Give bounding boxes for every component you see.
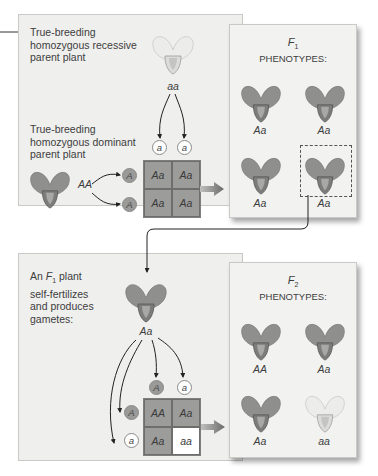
purple-flower-icon [238,316,284,362]
label-line: homozygous dominant [30,136,136,149]
punnett-square-p: Aa Aa Aa Aa [143,160,201,218]
gamete-left-A-1: A [122,168,137,183]
purple-flower-icon [238,388,284,434]
label-line: True-breeding [30,123,136,136]
gamete-left-A: A [124,405,139,420]
label-line: homozygous recessive [30,39,137,52]
f1-parent-genotype: Aa [126,325,166,337]
f1-title: F1 PHENOTYPES: [229,36,357,65]
f2-genotype: AA [240,363,280,375]
f1-selfing-label: An F1 plant self-fertilizes and produces… [30,270,94,325]
gamete-top-A: A [149,380,164,395]
recessive-genotype: aa [153,80,193,92]
purple-flower-icon [122,276,170,324]
purple-flower-icon [302,316,348,362]
punnett-cell: Aa [144,427,172,455]
dominant-parent-label: True-breeding homozygous dominant parent… [30,123,136,161]
f1-genotype: Aa [240,124,280,136]
purple-flower-icon [302,150,348,196]
f2-genotype: aa [304,435,344,447]
punnett-cell: Aa [172,189,200,217]
purple-flower-icon [238,150,284,196]
dominant-genotype: AA [65,178,105,190]
gamete-top-a-2: a [177,140,192,155]
white-flower-icon [149,28,197,76]
label-line: and produces [30,300,94,313]
label-line: self-fertilizes [30,288,94,301]
f1-genotype: Aa [304,197,344,209]
punnett-cell: aa [172,427,200,455]
f2-genotype: Aa [304,363,344,375]
white-flower-icon [302,388,348,434]
purple-flower-icon [238,78,284,124]
f2-title: F2 PHENOTYPES: [229,274,357,303]
punnett-cell: Aa [144,189,172,217]
punnett-cell: Aa [172,399,200,427]
f1-genotype: Aa [240,197,280,209]
punnett-cell: AA [144,399,172,427]
f1-title-text: PHENOTYPES: [229,53,357,65]
gamete-left-a: a [124,433,139,448]
gamete-left-A-2: A [122,197,137,212]
f2-title-text: PHENOTYPES: [229,291,357,303]
f2-subscript: 2 [294,281,298,288]
gamete-top-a: a [177,380,192,395]
purple-flower-icon [302,78,348,124]
intro-prefix: An [30,270,43,282]
label-line: True-breeding [30,26,137,39]
f1-subscript: 1 [294,43,298,50]
punnett-cell: Aa [144,161,172,189]
label-line: parent plant [30,148,136,161]
punnett-cell: Aa [172,161,200,189]
label-line: gametes: [30,313,94,326]
f2-genotype: Aa [240,435,280,447]
label-line: parent plant [30,51,137,64]
gamete-top-a-1: a [152,140,167,155]
intro-subscript: 1 [52,277,56,284]
f1-genotype: Aa [304,124,344,136]
punnett-square-f1: AA Aa Aa aa [143,398,201,456]
recessive-parent-label: True-breeding homozygous recessive paren… [30,26,137,64]
label-line: plant [59,270,82,282]
